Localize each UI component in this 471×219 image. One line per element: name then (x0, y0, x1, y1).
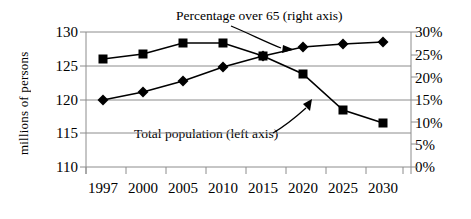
axis-left (80, 32, 86, 174)
data-point-diamond (178, 76, 189, 87)
data-point-diamond (298, 42, 309, 53)
data-point-diamond (138, 87, 149, 98)
axis-x-ticks (86, 167, 403, 174)
data-point-square (179, 39, 188, 48)
axis-right (411, 32, 418, 174)
chart-container: millions of persons 130 125 120 115 110 … (0, 0, 471, 219)
data-point-square (339, 106, 348, 115)
data-point-square (139, 50, 148, 59)
data-point-diamond (378, 37, 389, 48)
plot-area (0, 0, 471, 219)
data-point-square (219, 39, 228, 48)
gridlines (86, 32, 411, 167)
data-point-diamond (338, 39, 349, 50)
data-point-square (99, 55, 108, 64)
data-point-diamond (218, 62, 229, 73)
series-percentage-over-65 (99, 39, 388, 128)
data-point-square (299, 70, 308, 79)
annotation-leader-population (273, 99, 312, 133)
data-point-diamond (98, 95, 109, 106)
data-point-square (379, 119, 388, 128)
series-total-population (98, 37, 389, 106)
